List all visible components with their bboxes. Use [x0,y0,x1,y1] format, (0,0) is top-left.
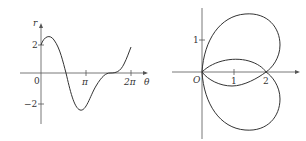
tick-label-2: 2 [32,40,38,50]
tick-label-y1: 1 [193,35,199,45]
theta-axis-arrow-icon [143,71,148,75]
tick-label-2pi: 2π [123,77,137,87]
tick-label-neg2: −2 [24,99,37,109]
cartesian-plot: r 2 −2 0 π 2π θ [20,18,150,124]
tick-label-x2: 2 [263,76,269,86]
polar-plot: O 1 2 1 [172,8,300,139]
origin-label: O [193,75,201,85]
figure: r 2 −2 0 π 2π θ O 1 2 1 [0,0,306,141]
tick-label-0: 0 [34,76,40,86]
r-axis-arrow-icon [39,23,43,28]
tick-label-pi: π [81,77,89,87]
theta-axis-label: θ [144,77,150,87]
upper-lobe [202,14,280,72]
tick-label-x1: 1 [231,76,237,86]
r-axis-label: r [33,18,38,28]
x-axis-arrow-icon [295,70,300,74]
